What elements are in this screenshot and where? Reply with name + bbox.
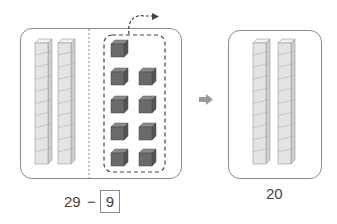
answer-box[interactable]: 9 xyxy=(100,190,120,213)
arrowhead-icon xyxy=(152,13,159,20)
base-ten-blocks-illustration xyxy=(0,0,337,224)
equation-operator: − xyxy=(87,193,96,210)
result-label: 20 xyxy=(266,185,283,202)
unit-cubes xyxy=(111,40,156,166)
equation-minuend: 29 xyxy=(64,193,81,210)
tens-rod xyxy=(278,39,295,164)
tens-rod xyxy=(253,39,270,164)
right-arrow-icon xyxy=(199,94,213,105)
tens-rod xyxy=(35,39,52,164)
tens-rod xyxy=(58,39,75,164)
take-away-arrow xyxy=(129,16,152,34)
